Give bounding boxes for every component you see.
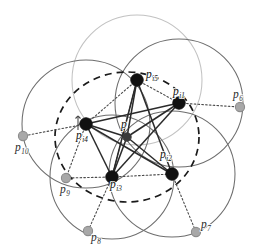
label-subscript-pi2: i2: [166, 155, 172, 163]
label-base-pi1: p: [172, 85, 179, 98]
label-base-p6: p: [232, 88, 239, 101]
label-subscript-pi4: i4: [82, 136, 88, 144]
label-subscript-pi1: i1: [179, 92, 185, 100]
label-subscript-p9: 9: [66, 190, 70, 198]
outer-point-p10[interactable]: [18, 131, 27, 140]
figure-root: ppi5pi1pi2pi3pi4p6p7p8p9p10: [0, 0, 262, 251]
outer-point-p6[interactable]: [235, 102, 244, 111]
label-base-p7: p: [200, 218, 207, 231]
outer-point-p9[interactable]: [61, 173, 70, 182]
center-point-layer: [123, 133, 131, 141]
label-subscript-p10: 10: [21, 148, 29, 156]
label-subscript-pi5: i5: [152, 75, 158, 83]
center-point-p[interactable]: [123, 133, 131, 141]
label-base-pi4: p: [75, 129, 82, 142]
label-subscript-p7: 7: [207, 225, 211, 233]
label-base-pi5: p: [145, 68, 152, 81]
neighbor-point-pi5[interactable]: [131, 74, 143, 86]
geometric-diagram-canvas: ppi5pi1pi2pi3pi4p6p7p8p9p10: [0, 0, 262, 251]
label-subscript-pi3: i3: [116, 185, 122, 193]
label-subscript-p6: 6: [239, 95, 243, 103]
label-base-pi3: p: [109, 178, 116, 191]
point-label-p: p: [120, 118, 127, 131]
label-base-p9: p: [59, 183, 66, 196]
outer-point-p7[interactable]: [191, 227, 200, 236]
label-base-p8: p: [90, 231, 97, 244]
label-subscript-p8: 8: [97, 238, 101, 246]
label-base-pi2: p: [159, 148, 166, 161]
neighbor-point-pi2[interactable]: [166, 168, 178, 180]
label-base-p10: p: [14, 141, 21, 154]
label-base-p: p: [120, 118, 127, 131]
